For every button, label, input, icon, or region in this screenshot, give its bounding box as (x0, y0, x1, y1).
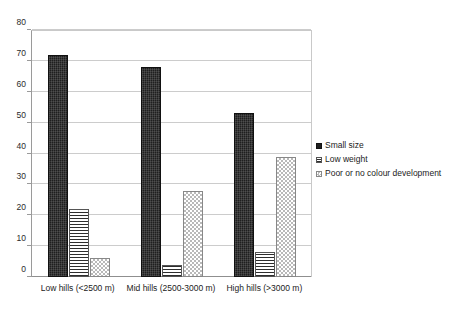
bar (183, 191, 203, 277)
bar (48, 55, 68, 277)
y-axis-tick-label: 40 (0, 142, 26, 150)
y-axis-tick-label: 0 (0, 265, 26, 273)
bar (255, 252, 275, 277)
legend-item-small-size[interactable]: Small size (316, 139, 452, 152)
y-axis-tick-label: 30 (0, 172, 26, 180)
y-axis-tick-label: 50 (0, 111, 26, 119)
bar (90, 258, 110, 277)
x-axis-labels: Low hills (<2500 m)Mid hills (2500-3000 … (31, 283, 312, 303)
y-axis: 01020304050607080 (0, 30, 26, 277)
y-axis-tick-label: 20 (0, 203, 26, 211)
bar (276, 157, 296, 277)
legend-label: Small size (325, 141, 364, 150)
bar (141, 67, 161, 277)
legend: Small size Low weight Poor or no colour … (316, 139, 452, 181)
legend-swatch-icon (316, 157, 322, 163)
legend-item-low-weight[interactable]: Low weight (316, 153, 452, 166)
y-axis-tick-label: 80 (0, 18, 26, 26)
y-axis-tick-label: 70 (0, 49, 26, 57)
bar (162, 265, 182, 277)
legend-item-poor-colour[interactable]: Poor or no colour development (316, 167, 452, 180)
x-axis-tick-label: Mid hills (2500-3000 m) (124, 283, 217, 293)
legend-label: Poor or no colour development (325, 169, 441, 178)
x-axis-tick-label: High hills (>3000 m) (218, 283, 311, 293)
legend-swatch-icon (316, 143, 322, 149)
legend-swatch-icon (316, 171, 322, 177)
bars-layer (32, 30, 312, 277)
bar-chart: 01020304050607080 Low hills (<2500 m)Mid… (0, 0, 454, 320)
bar (234, 113, 254, 277)
y-axis-tick-label: 10 (0, 234, 26, 242)
y-axis-tick-label: 60 (0, 80, 26, 88)
legend-label: Low weight (325, 155, 368, 164)
x-axis-tick-label: Low hills (<2500 m) (31, 283, 124, 293)
bar (69, 209, 89, 277)
